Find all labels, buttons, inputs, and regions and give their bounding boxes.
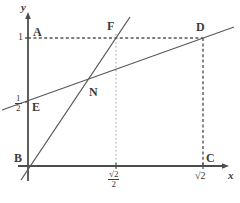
fraction-sqrt2-over-2: √2 2	[108, 170, 119, 190]
point-label-A: A	[33, 26, 42, 38]
solid-line-ED	[2, 27, 234, 110]
fraction-denominator: 2	[15, 104, 22, 113]
solid-line-BF	[21, 17, 130, 180]
point-label-D: D	[196, 21, 205, 33]
point-label-E: E	[32, 101, 40, 113]
x-tick-label-sqrt2: √2	[195, 171, 206, 181]
geometry-figure: y x 1 1 2 √2 2 √2 A B C D E F N	[0, 0, 240, 203]
point-label-N: N	[89, 86, 98, 98]
y-tick-label-one-half: 1 2	[15, 94, 22, 114]
point-label-C: C	[206, 152, 215, 164]
y-axis-arrowhead	[25, 12, 31, 19]
x-axis-arrowhead	[222, 163, 229, 169]
point-label-F: F	[107, 20, 114, 32]
y-axis-label: y	[21, 2, 26, 13]
point-label-B: B	[14, 152, 22, 164]
x-axis-label: x	[228, 170, 234, 181]
fraction-one-half: 1 2	[15, 94, 22, 114]
fraction-denominator: 2	[108, 180, 119, 189]
x-tick-label-sqrt2-over-2: √2 2	[108, 170, 119, 190]
y-tick-label-1: 1	[18, 32, 23, 42]
